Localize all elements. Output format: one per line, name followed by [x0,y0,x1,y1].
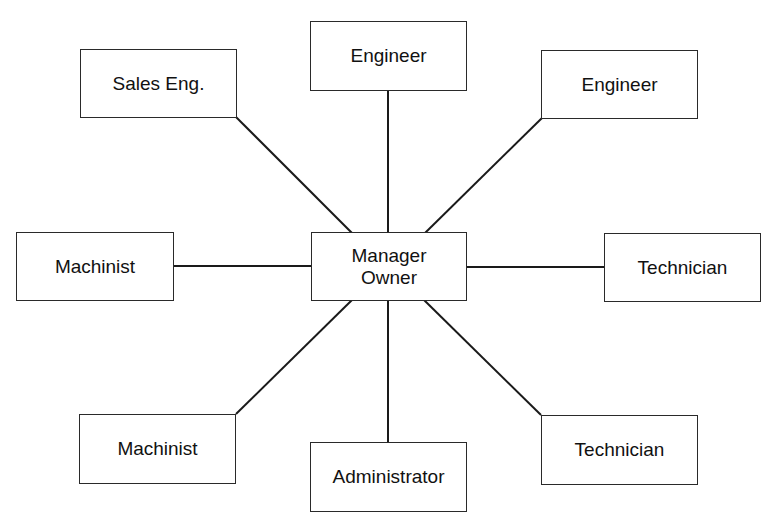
org-diagram: Manager Owner Sales Eng. Engineer Engine… [0,0,766,523]
node-label: Machinist [117,438,197,460]
node-engineer-right: Engineer [541,50,698,119]
node-label: Engineer [581,74,657,96]
node-label: Technician [575,439,665,461]
edge-technician-bottom [424,300,541,415]
node-machinist-left: Machinist [16,232,174,301]
node-technician-bottom: Technician [541,415,698,485]
edge-sales-eng [236,117,352,233]
node-engineer-top: Engineer [310,21,467,91]
node-label: Machinist [55,256,135,278]
node-machinist-bottom: Machinist [79,414,236,484]
node-label: Technician [638,257,728,279]
node-technician-right: Technician [604,233,761,302]
edge-engineer-right [425,118,542,233]
node-sales-eng: Sales Eng. [80,49,237,118]
node-label: Engineer [350,45,426,67]
node-label: Administrator [333,466,445,488]
node-label: Manager Owner [352,245,427,289]
node-administrator: Administrator [310,442,467,512]
node-label: Sales Eng. [113,73,205,95]
node-manager-owner: Manager Owner [311,232,467,301]
edge-machinist-bottom [236,300,352,414]
